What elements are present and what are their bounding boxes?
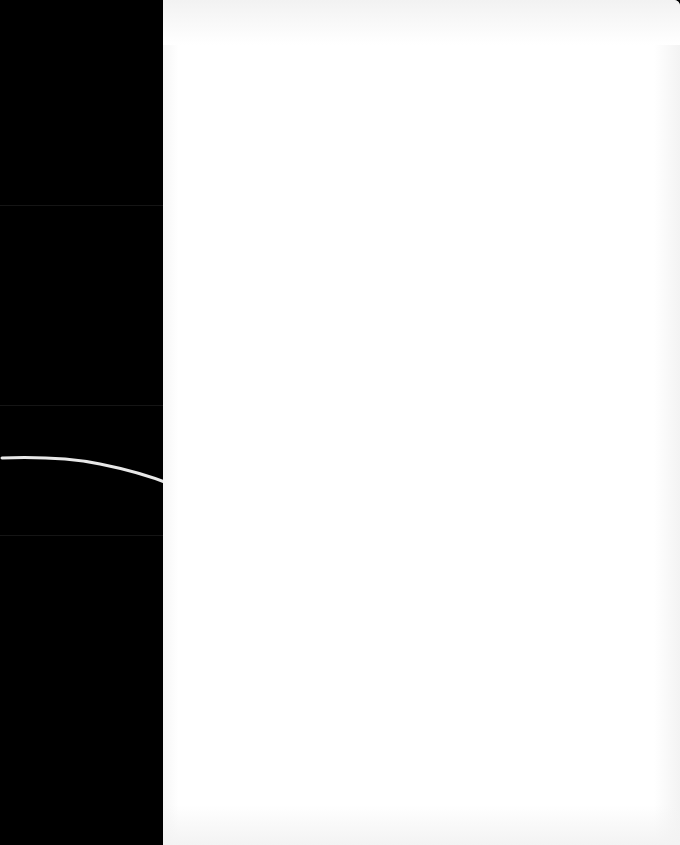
faint-line xyxy=(0,405,168,406)
faint-line xyxy=(0,535,168,536)
black-background xyxy=(0,0,170,845)
blank-white-sheet xyxy=(163,0,680,845)
faint-line xyxy=(0,205,168,206)
curved-white-line xyxy=(0,440,172,490)
